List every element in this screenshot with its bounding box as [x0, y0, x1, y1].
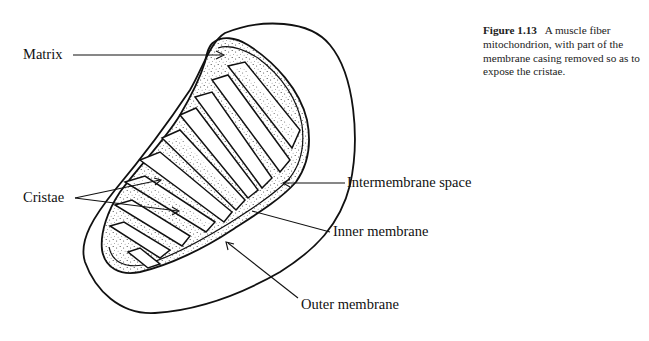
label-matrix: Matrix: [23, 46, 62, 63]
label-inner-membrane: Inner membrane: [333, 223, 428, 240]
label-cristae: Cristae: [23, 189, 64, 206]
label-intermembrane-space: Intermembrane space: [347, 174, 471, 191]
figure-caption: Figure 1.13 A muscle fiber mitochondrion…: [483, 24, 648, 79]
label-outer-membrane: Outer membrane: [301, 296, 399, 313]
figure-number: Figure 1.13: [483, 24, 537, 36]
